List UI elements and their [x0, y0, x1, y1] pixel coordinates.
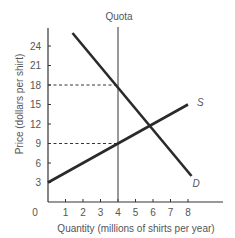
y-tick-label: 24 — [30, 41, 42, 52]
x-tick-label: 8 — [185, 207, 191, 218]
labels: Quantity (millions of shirts per year)Pr… — [14, 11, 215, 234]
curves — [48, 33, 192, 183]
x-tick-label: 6 — [150, 207, 156, 218]
x-tick-label: 2 — [80, 207, 86, 218]
axes: 0123456783691215182124 — [30, 28, 223, 218]
y-tick-label: 9 — [35, 138, 41, 149]
x-tick-label: 0 — [32, 207, 38, 218]
quota-label: Quota — [105, 11, 133, 22]
x-tick-label: 7 — [168, 207, 174, 218]
x-tick-label: 4 — [115, 207, 121, 218]
y-tick-label: 18 — [30, 80, 42, 91]
y-tick-label: 15 — [30, 99, 42, 110]
demand-curve — [73, 33, 192, 176]
y-tick-label: 12 — [30, 119, 42, 130]
y-axis-title: Price (dollars per shirt) — [14, 54, 25, 155]
x-axis-title: Quantity (millions of shirts per year) — [57, 223, 214, 234]
chart: 0123456783691215182124 Quantity (million… — [0, 0, 235, 238]
y-tick-label: 6 — [35, 158, 41, 169]
y-tick-label: 21 — [30, 60, 42, 71]
x-tick-label: 3 — [98, 207, 104, 218]
supply-label: S — [197, 97, 204, 108]
x-tick-label: 5 — [133, 207, 139, 218]
y-tick-label: 3 — [35, 177, 41, 188]
demand-label: D — [193, 178, 200, 189]
x-tick-label: 1 — [63, 207, 69, 218]
